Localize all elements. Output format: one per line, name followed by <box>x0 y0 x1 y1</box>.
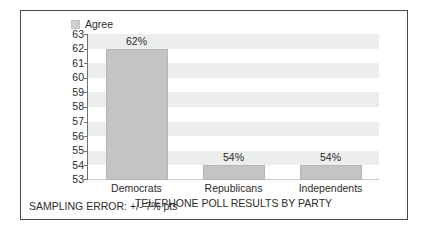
x-tick-label-democrats: Democrats <box>88 182 185 194</box>
y-tick-label: 58 <box>54 101 84 112</box>
y-tick-label: 54 <box>54 160 84 171</box>
y-tick-label: 59 <box>54 87 84 98</box>
y-tick-label: 57 <box>54 116 84 127</box>
sampling-error-note: SAMPLING ERROR: +/- 7% pts <box>29 200 178 212</box>
x-axis-tick-labels: Democrats Republicans Independents <box>88 182 379 194</box>
plot-area: 62% 54% 54% <box>88 34 379 180</box>
y-tick-label: 56 <box>54 131 84 142</box>
chart-plot-body: 63 62 61 60 59 58 57 56 55 54 53 62% 5 <box>21 34 409 180</box>
bar-slot: 62% <box>88 34 185 180</box>
y-tick-label: 61 <box>54 58 84 69</box>
y-tick-label: 60 <box>54 72 84 83</box>
bar-value-label: 62% <box>126 36 147 47</box>
legend-item-label: Agree <box>85 19 113 30</box>
y-tick-label: 55 <box>54 145 84 156</box>
x-tick-label-republicans: Republicans <box>185 182 282 194</box>
x-tick-label-independents: Independents <box>282 182 379 194</box>
y-axis-tick-labels: 63 62 61 60 59 58 57 56 55 54 53 <box>54 34 84 180</box>
y-tick-label: 62 <box>54 43 84 54</box>
bar[interactable] <box>203 165 265 180</box>
chart-frame: Agree 63 62 61 60 59 58 57 56 55 54 53 6… <box>20 10 408 220</box>
bar-series: 62% 54% 54% <box>88 34 379 180</box>
y-tick-label: 63 <box>54 29 84 40</box>
bar[interactable] <box>300 165 362 180</box>
bar-value-label: 54% <box>320 152 341 163</box>
y-tick-label: 53 <box>54 174 84 185</box>
bar-slot: 54% <box>282 34 379 180</box>
bar-slot: 54% <box>185 34 282 180</box>
bar[interactable] <box>106 49 168 180</box>
bar-value-label: 54% <box>223 152 244 163</box>
